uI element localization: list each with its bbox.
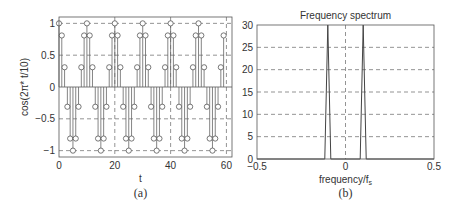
stem-marker (59, 33, 64, 38)
x-tick-label: 0 (56, 160, 62, 171)
stem-marker (210, 148, 215, 153)
stem-marker (135, 65, 140, 70)
stem-marker (62, 65, 67, 70)
stem-marker (137, 33, 142, 38)
y-axis-label: cos(2π* t/10) (19, 58, 30, 116)
y-tick-labels: −1−0.500.51 (35, 18, 55, 156)
stem-marker (101, 136, 106, 141)
stem-marker (213, 136, 218, 141)
panel-caption-a: (a) (134, 186, 147, 200)
stem-marker (90, 65, 95, 70)
stem-marker (112, 21, 117, 26)
stem-marker (129, 136, 134, 141)
stem-marker (193, 33, 198, 38)
y-tick-label: 0 (49, 82, 55, 93)
stem-marker (107, 65, 112, 70)
stem-marker (199, 33, 204, 38)
stem-marker (207, 136, 212, 141)
stem-marker (140, 21, 145, 26)
panel-caption-b: (b) (339, 186, 353, 200)
figure: 0204060 −1−0.500.51 t cos(2π* t/10) (a) … (0, 0, 461, 215)
stem-marker (104, 104, 109, 109)
stem-marker (98, 148, 103, 153)
stem-marker (126, 148, 131, 153)
x-axis-label-subscript: s (368, 179, 372, 186)
x-tick-label: 20 (109, 160, 121, 171)
stem-marker (160, 104, 165, 109)
stem-marker (151, 136, 156, 141)
stem-marker (188, 104, 193, 109)
x-tick-label: 40 (165, 160, 177, 171)
stem-marker (168, 21, 173, 26)
x-tick-label: 0.5 (427, 161, 441, 172)
stem-marker (109, 33, 114, 38)
y-tick-label: −1 (44, 145, 56, 156)
stem-marker (65, 104, 70, 109)
y-tick-label: 25 (242, 42, 254, 53)
stem-marker (121, 104, 126, 109)
stem-marker (76, 104, 81, 109)
frequency-spectrum-plot: Frequency spectrum −0.500.5 051015202530… (242, 10, 442, 200)
stem-marker (174, 65, 179, 70)
y-tick-label: −0.5 (35, 113, 55, 124)
stem-marker (115, 33, 120, 38)
stem-marker (79, 65, 84, 70)
stem-marker (154, 148, 159, 153)
stem-marker (179, 136, 184, 141)
stem-marker (201, 65, 206, 70)
y-tick-label: 20 (242, 64, 254, 75)
x-tick-labels: 0204060 (56, 160, 232, 171)
stem-marker (68, 136, 73, 141)
stem-marker (221, 33, 226, 38)
stem-marker (196, 21, 201, 26)
stem-marker (215, 104, 220, 109)
x-axis-label: frequency/fs (319, 174, 372, 186)
grid-lines (257, 25, 434, 159)
y-tick-label: 0 (247, 154, 253, 165)
stem-marker (185, 136, 190, 141)
x-tick-label: 0 (343, 161, 349, 172)
stem-marker (146, 65, 151, 70)
stem-marker (218, 65, 223, 70)
stem-marker (84, 21, 89, 26)
y-tick-label: 0.5 (41, 50, 55, 61)
stem-marker (148, 104, 153, 109)
stem-marker (70, 148, 75, 153)
stem-marker (157, 136, 162, 141)
stem-marker (190, 65, 195, 70)
stem-marker (132, 104, 137, 109)
y-tick-label: 30 (242, 20, 254, 31)
stem-marker (95, 136, 100, 141)
stem-marker (165, 33, 170, 38)
stem-marker (162, 65, 167, 70)
stem-marker (204, 104, 209, 109)
stem-marker (93, 104, 98, 109)
y-tick-label: 1 (49, 18, 55, 29)
y-tick-label: 15 (242, 87, 254, 98)
x-axis-label-main: frequency/f (319, 174, 369, 185)
y-tick-label: 5 (247, 131, 253, 142)
stem-marker (171, 33, 176, 38)
time-domain-stem-plot: 0204060 −1−0.500.51 t cos(2π* t/10) (a) (19, 17, 232, 200)
y-tick-label: 10 (242, 109, 254, 120)
stem-marker (143, 33, 148, 38)
x-axis-label: t (139, 173, 142, 184)
y-tick-labels: 051015202530 (242, 20, 254, 165)
stem-marker (182, 148, 187, 153)
stem-marker (123, 136, 128, 141)
stem-marker (176, 104, 181, 109)
chart-title: Frequency spectrum (300, 10, 391, 21)
x-tick-label: 60 (221, 160, 233, 171)
stem-marker (87, 33, 92, 38)
stem-marker (82, 33, 87, 38)
stem-marker (118, 65, 123, 70)
stem-marker (73, 136, 78, 141)
x-tick-labels: −0.500.5 (247, 161, 441, 172)
